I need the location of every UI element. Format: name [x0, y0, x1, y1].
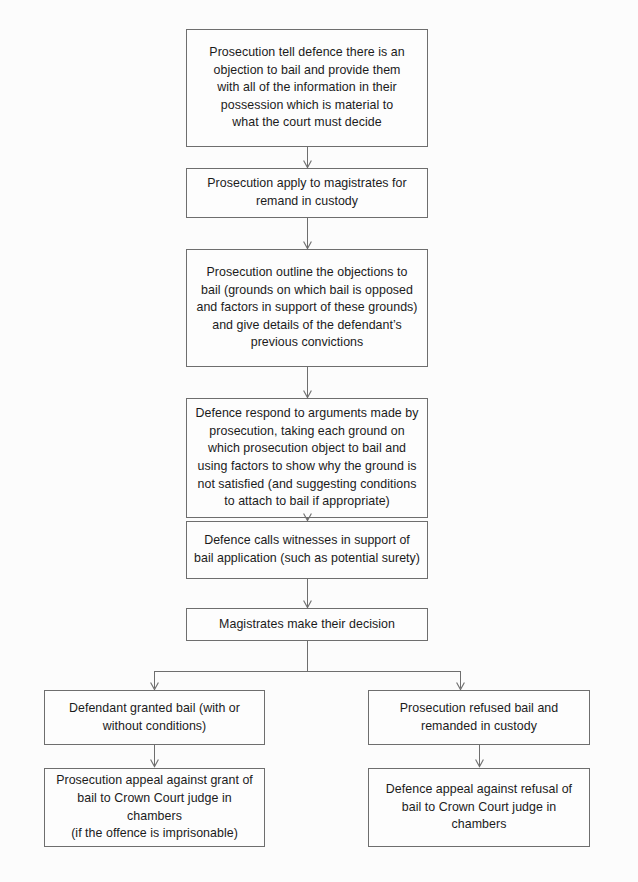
node-label: Prosecution refused bail and remanded in… — [375, 700, 583, 735]
connector-c7-arrowhead — [456, 682, 465, 690]
branch-stem-line — [307, 641, 308, 671]
node-defence-respond: Defence respond to arguments made by pro… — [186, 398, 428, 518]
node-defence-calls-witnesses: Defence calls witnesses in support of ba… — [186, 521, 428, 579]
node-label: Prosecution outline the objections to ba… — [193, 264, 421, 352]
connector-c1-arrowhead — [303, 160, 312, 168]
node-label: Defence respond to arguments made by pro… — [193, 405, 421, 511]
connector-c6-arrowhead — [150, 682, 159, 690]
node-prosecution-refused-bail: Prosecution refused bail and remanded in… — [368, 690, 590, 745]
node-defence-appeal: Defence appeal against refusal of bail t… — [368, 768, 590, 847]
node-label: Prosecution appeal against grant of bail… — [51, 772, 258, 842]
node-label: Defendant granted bail (with or without … — [51, 700, 258, 735]
connector-c3-arrowhead — [303, 390, 312, 398]
node-label: Prosecution apply to magistrates for rem… — [193, 175, 421, 210]
connector-c8-arrowhead — [150, 759, 159, 767]
node-prosecution-tell-defence: Prosecution tell defence there is an obj… — [186, 29, 428, 147]
node-label: Magistrates make their decision — [193, 616, 421, 634]
connector-c2-arrowhead — [303, 241, 312, 249]
node-label: Prosecution tell defence there is an obj… — [193, 44, 421, 132]
node-prosecution-appeal: Prosecution appeal against grant of bail… — [44, 768, 265, 847]
branch-horizontal-line — [154, 671, 461, 672]
node-label: Defence appeal against refusal of bail t… — [375, 781, 583, 834]
connector-c4-arrowhead — [303, 513, 312, 521]
connector-c9-arrowhead — [475, 759, 484, 767]
node-magistrates-decision: Magistrates make their decision — [186, 608, 428, 641]
node-label: Defence calls witnesses in support of ba… — [193, 532, 421, 567]
node-defendant-granted-bail: Defendant granted bail (with or without … — [44, 690, 265, 745]
node-prosecution-apply-remand: Prosecution apply to magistrates for rem… — [186, 168, 428, 218]
connector-c5-arrowhead — [303, 600, 312, 608]
node-prosecution-outline-objections: Prosecution outline the objections to ba… — [186, 249, 428, 367]
flowchart-canvas: Prosecution tell defence there is an obj… — [0, 0, 638, 882]
